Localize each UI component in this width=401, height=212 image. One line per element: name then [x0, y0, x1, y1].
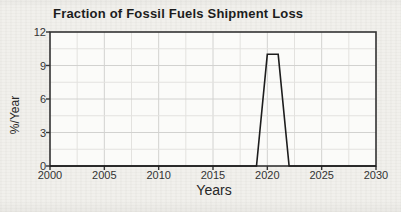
x-tick-label: 2010 — [139, 169, 179, 181]
y-tick-label: 3 — [10, 127, 46, 139]
x-tick-label: 2020 — [247, 169, 287, 181]
y-tick-label: 12 — [10, 26, 46, 38]
y-tick-label: 9 — [10, 60, 46, 72]
x-axis-label: Years — [196, 182, 231, 198]
x-tick-label: 2000 — [30, 169, 70, 181]
x-tick-label: 2025 — [302, 169, 342, 181]
y-tick-label: 6 — [10, 93, 46, 105]
x-tick-label: 2015 — [193, 169, 233, 181]
chart-figure: Fraction of Fossil Fuels Shipment Loss %… — [0, 0, 401, 212]
x-tick-label: 2030 — [356, 169, 396, 181]
x-tick-label: 2005 — [84, 169, 124, 181]
